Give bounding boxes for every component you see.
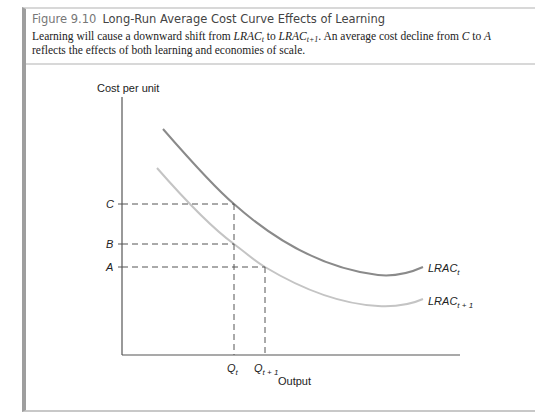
x-tick-qt: Qt xyxy=(227,362,239,377)
lrac-t-label: LRACt xyxy=(428,262,460,277)
x-tick-qt1: Qt + 1 xyxy=(254,362,278,377)
lrac-t1-curve xyxy=(157,168,423,306)
lrac-t-curve xyxy=(163,129,423,275)
lrac-chart: Cost per unit Output C B A Qt Qt + 1 LRA… xyxy=(0,0,560,420)
y-axis-label: Cost per unit xyxy=(97,82,159,94)
y-tick-a: A xyxy=(105,261,113,273)
y-tick-c: C xyxy=(106,198,114,210)
y-tick-b: B xyxy=(106,238,113,250)
lrac-t1-label: LRACt + 1 xyxy=(428,295,473,310)
x-axis-label: Output xyxy=(278,375,311,387)
